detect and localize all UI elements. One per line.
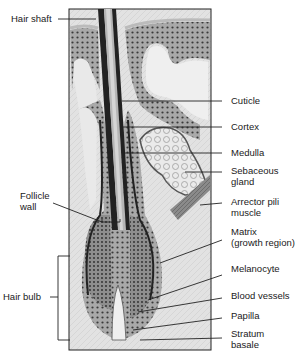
label-medulla: Medulla bbox=[231, 147, 264, 158]
label-cuticle: Cuticle bbox=[231, 95, 260, 106]
label-hair-shaft: Hair shaft bbox=[11, 13, 52, 24]
label-sebaceous-gland: Sebaceous gland bbox=[231, 165, 279, 187]
label-follicle-wall: Follicle wall bbox=[20, 190, 50, 212]
label-matrix: Matrix (growth region) bbox=[231, 226, 295, 248]
label-arrector-pili-muscle: Arrector pili muscle bbox=[231, 196, 279, 218]
label-melanocyte: Melanocyte bbox=[231, 263, 280, 274]
label-cortex: Cortex bbox=[231, 121, 259, 132]
label-stratum-basale: Stratum basale bbox=[231, 328, 264, 350]
label-blood-vessels: Blood vessels bbox=[231, 290, 290, 301]
label-papilla: Papilla bbox=[231, 310, 260, 321]
label-hair-bulb: Hair bulb bbox=[3, 291, 41, 302]
